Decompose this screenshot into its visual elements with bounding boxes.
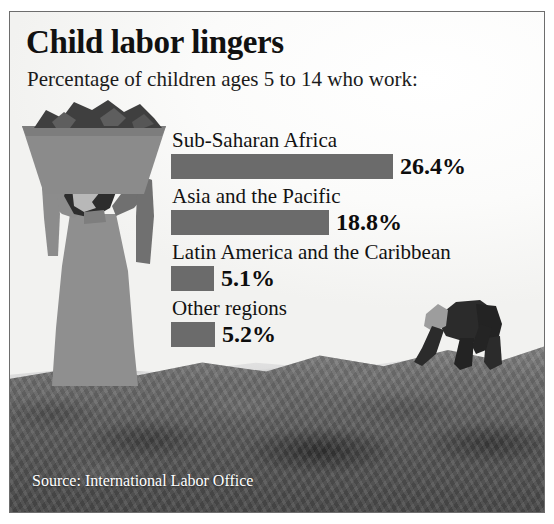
bar-category-label: Sub-Saharan Africa bbox=[172, 130, 531, 151]
bar-row: 26.4% bbox=[171, 154, 531, 179]
bar-row: 18.8% bbox=[171, 210, 531, 235]
bar-value-label: 5.1% bbox=[221, 266, 275, 291]
bar-row: 5.1% bbox=[171, 266, 531, 291]
woman-silhouette-icon bbox=[12, 96, 180, 386]
bar-fill bbox=[171, 210, 329, 235]
bar-value-label: 5.2% bbox=[222, 322, 276, 347]
chart-row: Other regions 5.2% bbox=[171, 298, 531, 347]
bar-fill bbox=[171, 266, 214, 291]
chart-row: Asia and the Pacific 18.8% bbox=[171, 186, 531, 235]
infographic-frame: Child labor lingers Percentage of childr… bbox=[9, 11, 545, 513]
page-subtitle: Percentage of children ages 5 to 14 who … bbox=[27, 69, 418, 90]
bar-category-label: Latin America and the Caribbean bbox=[172, 242, 531, 263]
bar-value-label: 18.8% bbox=[336, 210, 402, 235]
bar-row: 5.2% bbox=[171, 322, 531, 347]
chart-row: Latin America and the Caribbean 5.1% bbox=[171, 242, 531, 291]
page-title: Child labor lingers bbox=[26, 26, 284, 59]
bar-value-label: 26.4% bbox=[400, 154, 466, 179]
bar-chart: Sub-Saharan Africa 26.4% Asia and the Pa… bbox=[171, 130, 531, 354]
bar-category-label: Asia and the Pacific bbox=[172, 186, 531, 207]
chart-row: Sub-Saharan Africa 26.4% bbox=[171, 130, 531, 179]
infographic-root: Child labor lingers Percentage of childr… bbox=[0, 0, 554, 524]
source-attribution: Source: International Labor Office bbox=[32, 472, 253, 490]
bar-category-label: Other regions bbox=[172, 298, 531, 319]
woman-carrying-basin-illustration bbox=[12, 96, 180, 386]
bar-fill bbox=[171, 322, 215, 347]
bar-fill bbox=[171, 154, 393, 179]
